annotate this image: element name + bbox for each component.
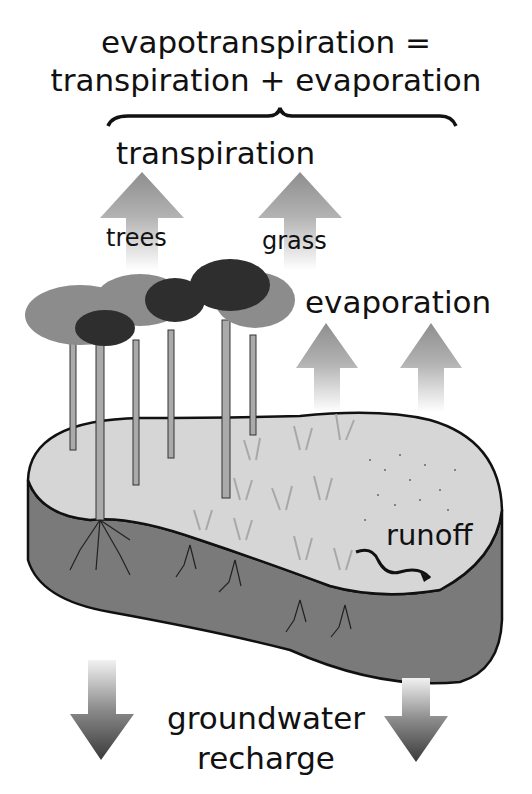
evaporation-arrow-left <box>296 323 358 412</box>
label-grass: grass <box>262 227 327 255</box>
label-transpiration: transpiration <box>116 135 315 171</box>
evapotranspiration-diagram <box>0 0 532 794</box>
title-line-2: transpiration + evaporation <box>0 62 532 98</box>
brace-icon <box>108 108 456 126</box>
label-groundwater: groundwater <box>0 700 532 736</box>
label-trees: trees <box>106 224 167 252</box>
label-recharge: recharge <box>0 740 532 776</box>
transpiration-arrow-trees <box>100 172 184 270</box>
evaporation-arrow-right <box>400 323 462 412</box>
label-evaporation: evaporation <box>305 284 491 320</box>
transpiration-arrow-grass <box>258 172 342 270</box>
label-runoff: runoff <box>386 518 472 552</box>
title-line-1: evapotranspiration = <box>0 24 532 60</box>
